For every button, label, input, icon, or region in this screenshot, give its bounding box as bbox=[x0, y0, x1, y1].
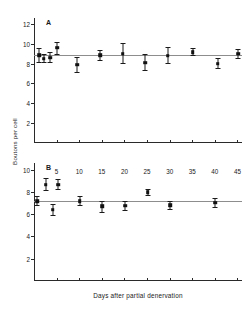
x-tick bbox=[192, 278, 193, 281]
error-bar-cap-upper bbox=[55, 42, 60, 43]
data-point bbox=[45, 178, 46, 191]
error-bar-cap-lower bbox=[120, 63, 125, 64]
data-marker bbox=[121, 52, 125, 56]
error-bar-cap-lower bbox=[215, 68, 220, 69]
error-bar-cap-lower bbox=[41, 62, 46, 63]
x-tick-label: 20 bbox=[121, 168, 128, 175]
data-marker bbox=[214, 201, 218, 205]
error-bar-cap-lower bbox=[35, 205, 40, 206]
error-bar-cap-upper bbox=[56, 179, 61, 180]
data-marker bbox=[42, 57, 46, 61]
data-marker bbox=[123, 204, 127, 208]
y-tick-label: 4 bbox=[26, 100, 30, 107]
data-marker bbox=[51, 208, 55, 212]
data-point bbox=[170, 201, 171, 210]
panel-b: B 24681051015202530354045 bbox=[34, 163, 242, 281]
y-tick bbox=[31, 170, 34, 171]
error-bar-cap-upper bbox=[50, 204, 55, 205]
y-tick-label: 8 bbox=[26, 188, 30, 195]
x-tick-label: 40 bbox=[211, 168, 218, 175]
data-point bbox=[237, 49, 238, 59]
error-bar-cap-lower bbox=[213, 207, 218, 208]
data-marker bbox=[216, 62, 220, 66]
figure-root: Boutons per cell A 24681012 B 2468105101… bbox=[0, 0, 252, 309]
x-tick-label: 25 bbox=[144, 168, 151, 175]
x-tick bbox=[79, 140, 80, 143]
data-point bbox=[57, 42, 58, 55]
x-tick bbox=[147, 278, 148, 281]
x-tick-label: 35 bbox=[189, 168, 196, 175]
y-tick-label: 8 bbox=[26, 60, 30, 67]
y-tick bbox=[31, 259, 34, 260]
data-point bbox=[100, 50, 101, 61]
y-tick-label: 10 bbox=[23, 40, 30, 47]
error-bar-cap-lower bbox=[56, 189, 61, 190]
y-tick bbox=[31, 192, 34, 193]
data-marker bbox=[44, 183, 48, 187]
error-bar-cap-lower bbox=[48, 62, 53, 63]
x-tick bbox=[102, 140, 103, 143]
error-bar-cap-upper bbox=[120, 43, 125, 44]
error-bar-cap-upper bbox=[168, 201, 173, 202]
data-marker bbox=[191, 50, 195, 54]
error-bar-cap-lower bbox=[98, 60, 103, 61]
error-bar-cap-upper bbox=[37, 48, 42, 49]
error-bar-cap-lower bbox=[77, 205, 82, 206]
error-bar-cap-upper bbox=[215, 58, 220, 59]
panel-a-y-axis bbox=[34, 18, 35, 143]
y-tick bbox=[31, 24, 34, 25]
error-bar-cap-upper bbox=[143, 54, 148, 55]
data-marker bbox=[166, 54, 170, 58]
x-tick bbox=[215, 140, 216, 143]
error-bar-cap-lower bbox=[168, 209, 173, 210]
data-marker bbox=[143, 61, 147, 65]
x-axis-title: Days after partial denervation bbox=[34, 292, 242, 299]
x-tick bbox=[170, 278, 171, 281]
y-tick-label: 10 bbox=[23, 166, 30, 173]
error-bar-cap-upper bbox=[98, 50, 103, 51]
panel-a-label: A bbox=[46, 19, 51, 26]
y-axis-title: Boutons per cell bbox=[11, 97, 18, 187]
data-point bbox=[217, 58, 218, 69]
data-point bbox=[52, 204, 53, 216]
panel-a-x-axis bbox=[34, 142, 242, 143]
data-marker bbox=[49, 56, 53, 60]
x-tick bbox=[102, 278, 103, 281]
error-bar-cap-lower bbox=[165, 63, 170, 64]
data-marker bbox=[236, 52, 240, 56]
error-bar-cap-lower bbox=[145, 195, 150, 196]
error-bar-cap-upper bbox=[35, 196, 40, 197]
data-point bbox=[43, 54, 44, 63]
data-marker bbox=[78, 200, 82, 204]
error-bar-cap-lower bbox=[100, 212, 105, 213]
data-point bbox=[37, 196, 38, 206]
data-point bbox=[50, 52, 51, 63]
x-tick bbox=[192, 140, 193, 143]
data-marker bbox=[55, 46, 59, 50]
y-tick bbox=[31, 214, 34, 215]
data-marker bbox=[168, 203, 172, 207]
error-bar-cap-upper bbox=[145, 189, 150, 190]
data-marker bbox=[76, 63, 80, 67]
y-tick bbox=[31, 64, 34, 65]
data-point bbox=[124, 201, 125, 211]
error-bar-cap-upper bbox=[190, 48, 195, 49]
error-bar-cap-lower bbox=[50, 215, 55, 216]
y-tick-label: 2 bbox=[26, 120, 30, 127]
y-tick bbox=[31, 44, 34, 45]
error-bar-cap-upper bbox=[213, 198, 218, 199]
panel-b-x-axis bbox=[34, 280, 242, 281]
data-point bbox=[145, 54, 146, 70]
x-tick-label: 15 bbox=[98, 168, 105, 175]
x-tick bbox=[237, 278, 238, 281]
panel-b-plot-area: B 24681051015202530354045 bbox=[34, 163, 242, 281]
panel-a-plot-area: A 24681012 bbox=[34, 18, 242, 143]
x-tick bbox=[124, 140, 125, 143]
y-tick-label: 12 bbox=[23, 20, 30, 27]
x-tick bbox=[57, 140, 58, 143]
data-marker bbox=[101, 205, 105, 209]
reference-line bbox=[34, 201, 242, 202]
x-tick bbox=[57, 278, 58, 281]
x-tick bbox=[79, 278, 80, 281]
data-point bbox=[102, 201, 103, 213]
